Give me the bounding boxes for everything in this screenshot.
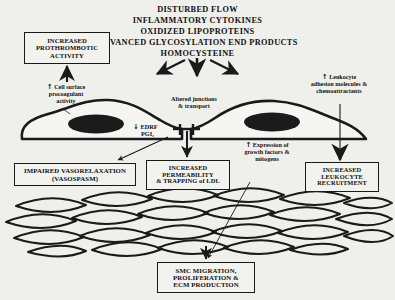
annotation-leukocyte-adhesion: ↑ Leukocyte adhesion molecules & chemoat… (288, 74, 390, 94)
junctions-line-2: & transport (148, 103, 240, 110)
procoagulant-line-1: ↑ Cell surface (26, 84, 106, 91)
growth-line-3: mitogens (226, 156, 308, 163)
leukocyte-adhesion-text-1: Leukocyte (329, 74, 356, 80)
smc-line-1: SMC MIGRATION, (176, 267, 237, 274)
stimulus-fan-arrows (157, 58, 238, 76)
growth-text-1: Expression of (253, 141, 289, 148)
leukocyte-adhesion-line-2: adhesion molecules & (288, 81, 390, 88)
nucleus-right (244, 113, 300, 132)
annotation-altered-junctions: Altered junctions & transport (148, 96, 240, 110)
leukocyte-recruitment-line-3: RECRUITMENT (317, 180, 367, 187)
box-increased-prothrombotic-activity: INCREASED PROTHROMBOTIC ACTIVITY (24, 32, 110, 64)
procoagulant-line-3: activity (26, 98, 106, 105)
up-arrow-icon: ↑ (322, 73, 328, 81)
edrf-line-2: PGI₂ (133, 131, 179, 138)
procoagulant-line-2: procoagulant (26, 91, 106, 98)
box-increased-leukocyte-recruitment: INCREASED LEUKOCYTE RECRUITMENT (305, 162, 379, 192)
smc-line-3: ECM PRODUCTION (173, 281, 238, 288)
nucleus-left (68, 115, 124, 134)
leukocyte-adhesion-line-1: ↑ Leukocyte (288, 74, 390, 81)
smooth-muscle-cell-mesh (6, 188, 393, 256)
annotation-edrf-pgi2: ↓ EDRF PGI₂ (133, 124, 179, 138)
annotation-procoagulant-activity: ↑ Cell surface procoagulant activity (26, 84, 106, 104)
edrf-line-1: ↓ EDRF (133, 124, 179, 131)
procoagulant-text-1: Cell surface (54, 84, 85, 90)
box-increased-permeability: INCREASED PERMEABILITY & TRAPPING of LDL (146, 160, 230, 190)
prothrombotic-line-1: INCREASED (47, 37, 87, 44)
down-arrow-icon: ↓ (133, 123, 139, 131)
edrf-text-1: EDRF (140, 123, 157, 130)
annotation-growth-factors: ↑ Expression of growth factors & mitogen… (226, 142, 308, 163)
permeability-line-3: & TRAPPING of LDL (156, 178, 220, 185)
diagram-canvas: DISTURBED FLOW INFLAMMATORY CYTOKINES OX… (0, 0, 395, 300)
up-arrow-icon: ↑ (47, 83, 53, 91)
prothrombotic-line-3: ACTIVITY (50, 52, 84, 59)
leukocyte-adhesion-line-3: chemoattractants (288, 88, 390, 95)
vasorelaxation-line-2: (VASOSPASM) (52, 175, 98, 182)
prothrombotic-line-2: PROTHROMBOTIC (36, 44, 98, 51)
vasorelaxation-line-1: IMPAIRED VASORELAXATION (24, 167, 126, 174)
arrow-edrf-to-vasorelaxation (118, 137, 168, 160)
smc-line-2: PROLIFERATION & (173, 274, 239, 281)
box-smc-migration-proliferation: SMC MIGRATION, PROLIFERATION & ECM PRODU… (157, 262, 255, 293)
box-impaired-vasorelaxation: IMPAIRED VASORELAXATION (VASOSPASM) (14, 163, 136, 186)
